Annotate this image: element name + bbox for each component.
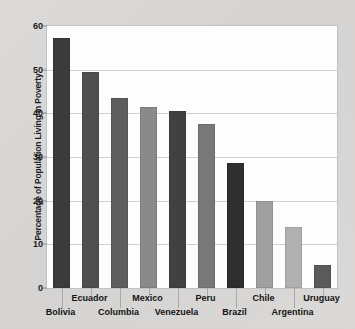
x-tick-mark-bolivia (62, 288, 63, 308)
x-axis-label-argentina: Argentina (271, 308, 313, 317)
bar-slot (279, 26, 308, 288)
x-axis-label-brazil: Brazil (222, 308, 247, 317)
x-axis-label-mexico: Mexico (132, 294, 163, 303)
bar-slot (105, 26, 134, 288)
x-axis-label-ecuador: Ecuador (71, 294, 107, 303)
bar-brazil[interactable] (227, 163, 245, 288)
bar-slot (221, 26, 250, 288)
x-tick-mark-argentina (294, 288, 295, 308)
bar-columbia[interactable] (111, 98, 129, 288)
bar-argentina[interactable] (285, 227, 303, 288)
plot-area: 0102030405060 (46, 25, 338, 289)
bar-chart-figure: Percentage of Population Living in Pover… (0, 0, 355, 329)
bar-bolivia[interactable] (53, 38, 71, 288)
x-tick-mark-venezuela (178, 288, 179, 308)
x-axis-label-columbia: Columbia (98, 308, 139, 317)
bar-slot (76, 26, 105, 288)
bar-slot (308, 26, 337, 288)
bar-slot (163, 26, 192, 288)
bar-slot (250, 26, 279, 288)
bar-peru[interactable] (198, 124, 216, 288)
x-axis-label-venezuela: Venezuela (155, 308, 199, 317)
x-tick-mark-brazil (236, 288, 237, 308)
bar-slot (134, 26, 163, 288)
bar-slot (47, 26, 76, 288)
bar-venezuela[interactable] (169, 111, 187, 288)
bar-mexico[interactable] (140, 107, 158, 288)
x-axis-label-peru: Peru (195, 294, 215, 303)
bar-ecuador[interactable] (82, 72, 100, 288)
bars-group (47, 26, 337, 288)
bar-slot (192, 26, 221, 288)
bar-chile[interactable] (256, 201, 274, 288)
x-tick-mark-columbia (120, 288, 121, 308)
bar-uruguay[interactable] (314, 265, 332, 288)
x-axis-label-bolivia: Bolivia (46, 308, 76, 317)
x-axis-label-uruguay: Uruguay (303, 294, 340, 303)
x-axis-label-chile: Chile (252, 294, 274, 303)
